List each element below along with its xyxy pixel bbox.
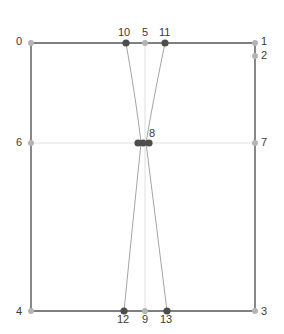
frame-edges-layer — [31, 43, 255, 311]
node-6-label: 6 — [16, 137, 22, 148]
node-13-label: 13 — [160, 314, 172, 325]
node-8-overlap-right[interactable] — [145, 139, 152, 146]
diagram-canvas-container: 012345678910111213 — [0, 0, 284, 334]
node-9-label: 9 — [142, 314, 148, 325]
curve-8-to-12 — [124, 143, 141, 311]
node-1[interactable] — [252, 40, 258, 46]
node-10-label: 10 — [118, 27, 130, 38]
node-5-label: 5 — [142, 27, 148, 38]
geometry-diagram-svg — [0, 0, 284, 334]
node-8-overlap-left[interactable] — [134, 139, 141, 146]
node-8-label: 8 — [149, 128, 155, 139]
node-3[interactable] — [252, 308, 258, 314]
node-6[interactable] — [28, 140, 34, 146]
node-11-label: 11 — [159, 27, 170, 38]
node-0[interactable] — [28, 40, 34, 46]
node-7[interactable] — [252, 140, 258, 146]
node-7-label: 7 — [261, 137, 267, 148]
node-5[interactable] — [142, 40, 148, 46]
node-1-label: 1 — [261, 36, 267, 47]
node-points-layer — [28, 39, 258, 314]
node-10[interactable] — [122, 39, 129, 46]
curve-10-to-8 — [126, 43, 141, 143]
node-2-label: 2 — [261, 50, 267, 61]
node-11[interactable] — [161, 39, 168, 46]
node-4-label: 4 — [16, 306, 22, 317]
node-3-label: 3 — [261, 306, 267, 317]
guide-lines-layer — [31, 43, 255, 311]
node-12-label: 12 — [117, 314, 129, 325]
node-0-label: 0 — [16, 36, 22, 47]
curve-8-to-13 — [146, 143, 167, 311]
node-4[interactable] — [28, 308, 34, 314]
node-2[interactable] — [252, 53, 258, 59]
